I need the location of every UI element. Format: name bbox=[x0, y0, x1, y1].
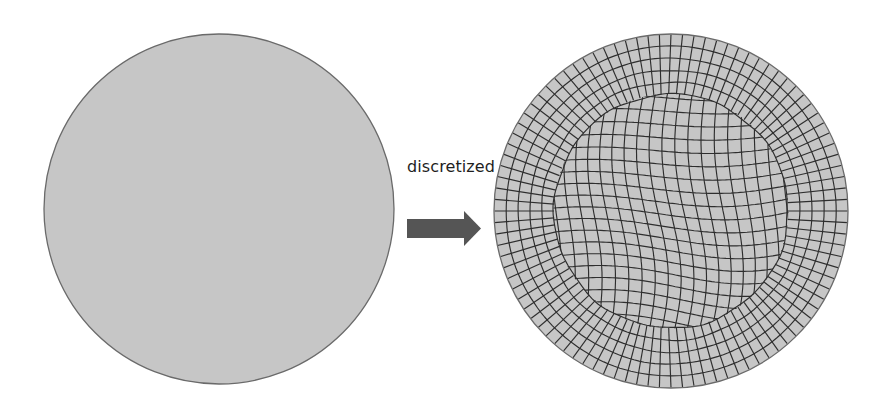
discretized-label: discretized bbox=[407, 157, 495, 176]
arrow-right-icon bbox=[407, 211, 481, 246]
figure-canvas bbox=[0, 0, 890, 412]
discretized-mesh-circle bbox=[494, 34, 848, 388]
continuous-domain-circle bbox=[44, 34, 394, 384]
figure: discretized bbox=[0, 0, 890, 412]
